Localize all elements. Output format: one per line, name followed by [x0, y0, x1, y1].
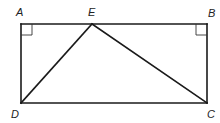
point-label-d: D	[11, 108, 19, 120]
point-label-a: A	[15, 6, 23, 18]
right-angle-marker-a	[21, 24, 32, 35]
point-label-b: B	[208, 7, 215, 19]
segment-ed	[21, 24, 92, 103]
point-label-e: E	[88, 6, 96, 18]
segment-ec	[92, 24, 207, 103]
geometry-diagram: A E B C D	[0, 0, 220, 123]
right-angle-marker-b	[196, 24, 207, 35]
point-label-c: C	[207, 108, 215, 120]
